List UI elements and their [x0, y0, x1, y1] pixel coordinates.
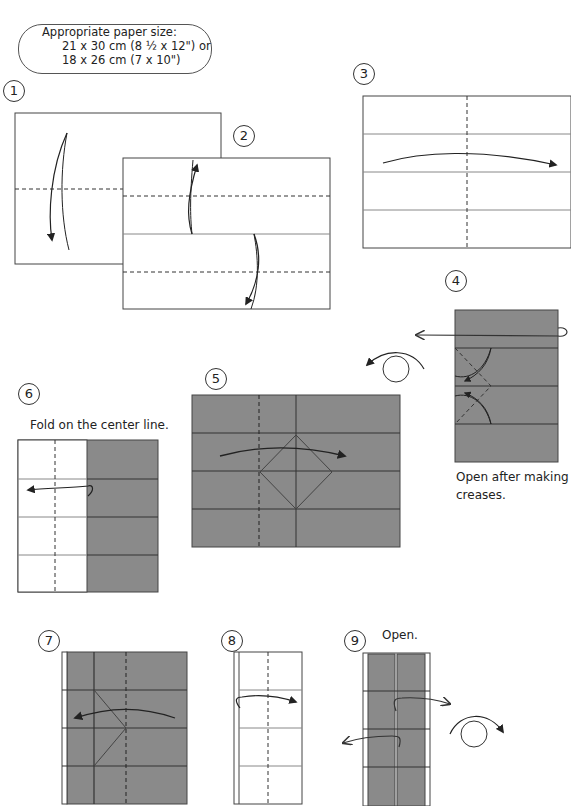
step-4-caption-line1: Open after making	[456, 470, 569, 484]
step-2-number: 2	[233, 125, 255, 147]
step-6-number: 6	[18, 383, 40, 405]
step-9-number: 9	[344, 630, 366, 652]
step-9-diagram	[343, 653, 503, 806]
step-7-diagram	[62, 652, 187, 804]
step-2-diagram	[123, 158, 330, 309]
step-4-caption-line2: creases.	[456, 488, 506, 502]
step-7-number: 7	[38, 630, 60, 652]
step-5-diagram	[192, 395, 400, 547]
origami-diagram	[0, 0, 571, 806]
step-3-number: 3	[353, 63, 375, 85]
step-8-number: 8	[221, 630, 243, 652]
step-5-number: 5	[205, 368, 227, 390]
step-4-number: 4	[445, 270, 467, 292]
step-8-diagram	[234, 652, 302, 804]
step-6-diagram	[18, 440, 158, 592]
step-6-caption: Fold on the center line.	[30, 418, 169, 432]
step-3-diagram	[363, 96, 571, 248]
step-1-number: 1	[3, 80, 25, 102]
step-9-caption: Open.	[382, 628, 418, 642]
